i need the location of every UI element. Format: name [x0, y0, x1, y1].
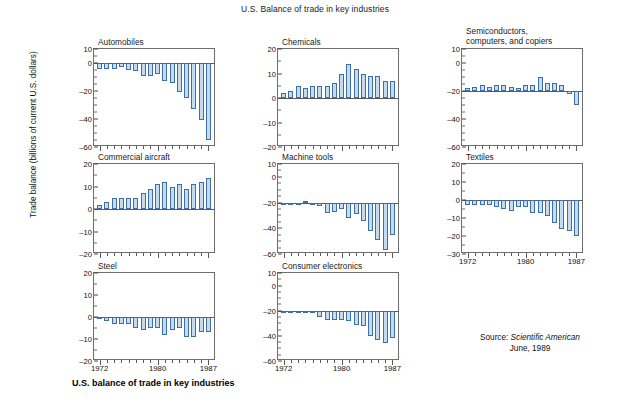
x-tick-mark: [179, 360, 180, 363]
bar: [206, 63, 211, 140]
bar: [472, 200, 477, 205]
bar: [155, 63, 160, 74]
y-tick-mark: [462, 91, 466, 92]
y-tick-label: –10: [263, 118, 276, 127]
y-tick-label: 0: [88, 313, 92, 322]
y-tick-minor: [462, 126, 465, 127]
y-tick-minor: [462, 77, 465, 78]
chart-panel: Automobiles100–20–40–60: [93, 48, 215, 146]
x-tick-mark: [165, 146, 166, 149]
bar: [310, 203, 315, 205]
bar: [559, 85, 564, 91]
y-axis: 100–20–40–60: [238, 273, 278, 359]
bar: [501, 200, 506, 209]
bar: [552, 83, 557, 91]
x-tick-mark: [107, 146, 108, 149]
bar: [177, 63, 182, 92]
bar: [162, 63, 167, 81]
x-tick-mark: [172, 360, 173, 363]
bar: [354, 311, 359, 325]
plot-area: 100–20–40–60: [277, 163, 399, 253]
x-tick-mark: [194, 253, 195, 256]
bar: [170, 187, 175, 210]
bar: [133, 198, 138, 209]
x-tick-mark: [136, 360, 137, 363]
x-axis: 197219801987: [461, 253, 583, 267]
x-tick-label: 1980: [333, 364, 350, 373]
y-tick-label: 10: [84, 45, 92, 54]
x-tick-mark: [201, 146, 202, 149]
x-tick-mark: [497, 253, 498, 256]
x-tick-mark: [497, 146, 498, 149]
bar: [523, 200, 528, 207]
bar: [288, 203, 293, 205]
y-tick-minor: [462, 191, 465, 192]
x-tick-mark: [562, 253, 563, 256]
x-tick-label: 1980: [149, 364, 166, 373]
x-tick-mark: [342, 253, 343, 258]
bar: [368, 76, 373, 98]
x-tick-label: 1987: [568, 257, 585, 266]
bar: [530, 200, 535, 213]
y-tick-label: –60: [79, 143, 92, 152]
bar: [390, 203, 395, 235]
y-tick-label: 20: [84, 269, 92, 278]
bar: [148, 63, 153, 76]
y-axis: 20100–10–20–30: [422, 164, 462, 252]
bar: [368, 203, 373, 231]
x-tick-mark: [576, 146, 577, 151]
y-tick-mark: [94, 49, 98, 50]
bar: [480, 85, 485, 91]
x-tick-mark: [298, 360, 299, 363]
bar: [487, 200, 492, 205]
bar: [206, 178, 211, 210]
chart-panel: Textiles20100–10–20–30197219801987: [461, 163, 583, 253]
bar: [538, 77, 543, 91]
y-axis: 20100–10–20: [54, 164, 94, 252]
y-tick-minor: [94, 140, 97, 141]
bar: [472, 87, 477, 91]
bar: [375, 76, 380, 98]
bar: [375, 203, 380, 240]
y-tick-label: –20: [79, 87, 92, 96]
bar: [112, 198, 117, 209]
y-tick-mark: [278, 202, 282, 203]
x-tick-mark: [305, 146, 306, 149]
y-tick-minor: [462, 105, 465, 106]
bar: [119, 63, 124, 67]
bar: [530, 85, 535, 91]
y-tick-minor: [278, 291, 281, 292]
bar: [383, 311, 388, 344]
x-tick-mark: [114, 360, 115, 363]
x-tick-mark: [201, 360, 202, 363]
bar: [104, 317, 109, 321]
y-tick-label: –40: [263, 224, 276, 233]
x-tick-mark: [208, 146, 209, 151]
x-tick-mark: [475, 253, 476, 256]
x-tick-mark: [349, 253, 350, 256]
x-tick-mark: [547, 146, 548, 149]
y-tick-minor: [94, 70, 97, 71]
x-tick-mark: [334, 360, 335, 363]
x-tick-mark: [187, 146, 188, 149]
x-tick-mark: [363, 253, 364, 256]
y-tick-mark: [278, 122, 282, 123]
y-tick-minor: [278, 247, 281, 248]
y-tick-minor: [94, 284, 97, 285]
y-tick-minor: [278, 304, 281, 305]
bar: [199, 182, 204, 209]
chart-panel: Steel20100–10–20197219801987: [93, 272, 215, 360]
x-tick-mark: [150, 360, 151, 363]
x-tick-mark: [179, 146, 180, 149]
bar: [148, 317, 153, 328]
y-tick-minor: [278, 279, 281, 280]
y-tick-minor: [462, 56, 465, 57]
y-tick-minor: [94, 220, 97, 221]
bar-series: [464, 164, 580, 252]
y-tick-minor: [278, 342, 281, 343]
y-tick-label: 20: [452, 160, 460, 169]
y-tick-minor: [462, 227, 465, 228]
bar: [288, 91, 293, 98]
bar: [346, 311, 351, 321]
x-tick-mark: [511, 253, 512, 256]
